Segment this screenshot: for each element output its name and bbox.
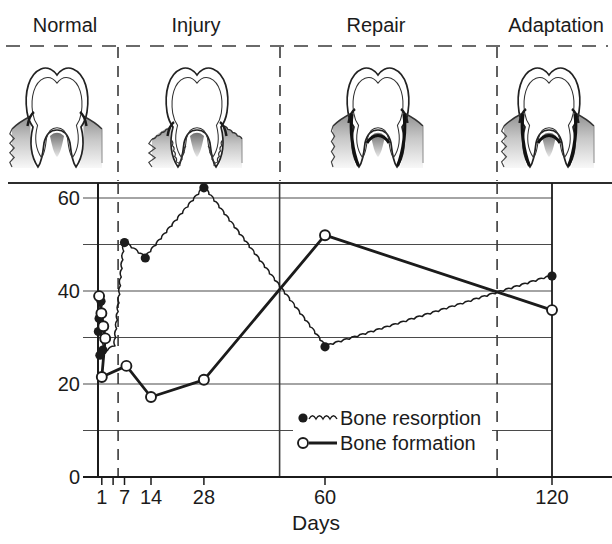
bone-resorption-data-point [199, 183, 208, 192]
legend: Bone resorption Bone formation [293, 403, 492, 456]
bone-resorption-data-point [547, 272, 556, 281]
legend-marker-formation-circle [298, 438, 308, 448]
bone-resorption-data-point [141, 253, 150, 262]
tooth-illustration-adaptation [502, 68, 594, 168]
alveolar-bone-furcation [190, 133, 204, 157]
bone-formation-data-point [94, 291, 104, 301]
phase-label-normal: Normal [33, 14, 97, 36]
figure-canvas: Normal Injury Repair Adaptation 17142860… [0, 0, 612, 544]
x-tick-label-14: 14 [140, 486, 162, 508]
bone-resorption-data-point [320, 342, 329, 351]
bone-resorption-data-point [120, 238, 129, 247]
legend-label-resorption: Bone resorption [340, 407, 481, 429]
tooth-illustration-injury [149, 68, 242, 168]
bone-formation-data-point [97, 372, 107, 382]
bone-formation-curve [99, 235, 552, 397]
bone-resorption-data-point [95, 351, 104, 360]
bone-formation-data-point [146, 392, 156, 402]
tooth-illustration-repair [331, 68, 423, 168]
x-tick-label-28: 28 [193, 486, 215, 508]
y-tick-label-40: 40 [58, 280, 80, 302]
bone-resorption-curve [98, 188, 552, 355]
x-tick-label-1: 1 [96, 486, 107, 508]
alveolar-bone-furcation [50, 133, 64, 157]
bone-formation-data-point [320, 230, 330, 240]
y-tick-label-60: 60 [58, 187, 80, 209]
legend-marker-resorption-dot [298, 413, 307, 422]
chart-area: 171428601200204060 [58, 183, 612, 508]
bone-formation-data-point [98, 321, 108, 331]
bone-formation-data-point [547, 305, 557, 315]
phase-label-repair: Repair [347, 14, 406, 36]
y-tick-label-20: 20 [58, 373, 80, 395]
x-tick-label-60: 60 [314, 486, 336, 508]
bone-formation-data-point [96, 308, 106, 318]
bone-formation-data-point [199, 375, 209, 385]
teeth-illustration-row [10, 68, 594, 168]
tooth-illustration-normal [10, 68, 102, 168]
x-tick-label-7: 7 [119, 486, 130, 508]
bone-remodeling-figure: Normal Injury Repair Adaptation 17142860… [0, 0, 612, 544]
phase-label-adaptation: Adaptation [508, 14, 604, 36]
x-axis-title: Days [292, 511, 340, 534]
legend-label-formation: Bone formation [340, 432, 476, 454]
x-tick-label-120: 120 [535, 486, 568, 508]
bone-formation-data-point [100, 333, 110, 343]
bone-formation-data-point [121, 361, 131, 371]
y-tick-label-0: 0 [69, 466, 80, 488]
phase-label-injury: Injury [172, 14, 221, 36]
